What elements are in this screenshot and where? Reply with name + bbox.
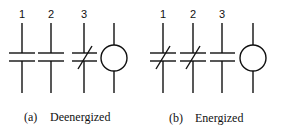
contact-1-closed: 1	[150, 8, 176, 93]
caption-text: Deenergized	[50, 110, 110, 124]
panel-b-energized: 1 2 3 (b) Energized	[150, 8, 266, 125]
contact-label: 3	[219, 8, 225, 20]
contact-3-closed: 3	[72, 8, 97, 93]
contact-2-closed: 2	[180, 8, 206, 93]
caption-letter: (b)	[169, 111, 183, 125]
contact-label: 1	[160, 8, 166, 20]
contact-2-open: 2	[38, 8, 64, 93]
caption-letter: (a)	[24, 110, 37, 124]
caption-text: Energized	[195, 111, 243, 125]
contact-1-open: 1	[9, 8, 35, 93]
relay-contact-diagram: 1 2 3 (a) Deenergi	[0, 0, 284, 126]
contact-3-open: 3	[210, 8, 235, 93]
contact-label: 3	[81, 8, 87, 20]
contact-label: 2	[48, 8, 54, 20]
relay-coil	[240, 23, 266, 93]
contact-label: 1	[19, 8, 25, 20]
panel-a-deenergized: 1 2 3 (a) Deenergi	[9, 8, 127, 124]
contact-label: 2	[190, 8, 196, 20]
relay-coil	[101, 23, 127, 93]
